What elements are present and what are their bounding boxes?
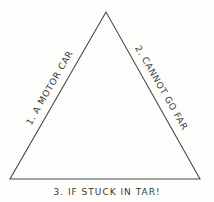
triangle-diagram: 1. A MOTOR CAR 2. CANNOT GO FAR 3. IF ST… xyxy=(0,0,214,202)
triangle-shape xyxy=(0,0,214,202)
side-label-bottom: 3. IF STUCK IN TAR! xyxy=(53,188,160,197)
